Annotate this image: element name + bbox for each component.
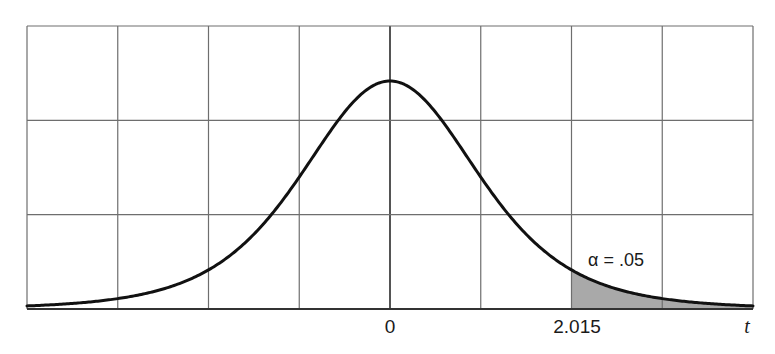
t-distribution-chart: α = .05 0 2.015 t xyxy=(0,0,775,354)
x-tick-label-critical-value: 2.015 xyxy=(553,316,601,337)
x-tick-label-zero: 0 xyxy=(385,316,396,337)
x-axis-label-t: t xyxy=(744,315,750,337)
grid-overlay xyxy=(27,26,753,309)
alpha-annotation: α = .05 xyxy=(588,250,644,270)
